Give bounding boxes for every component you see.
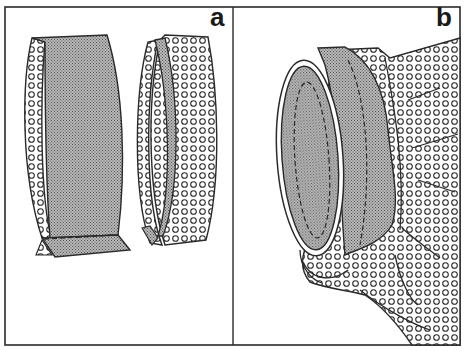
right-sleeve-piece [137, 35, 216, 245]
sewing-diagram-figure: a b [0, 0, 465, 351]
panel-a [25, 35, 217, 257]
panel-label-a: a [210, 4, 224, 30]
panel-label-b: b [436, 4, 452, 30]
diagram-canvas [0, 0, 465, 351]
left-sleeve-piece [25, 35, 130, 257]
panel-b [270, 38, 460, 345]
